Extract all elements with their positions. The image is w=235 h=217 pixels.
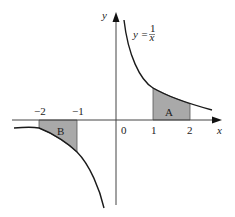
- tick-label-neg1: −1: [72, 105, 84, 117]
- tick-label-neg2: −2: [34, 105, 46, 117]
- y-axis-arrow-icon: [113, 12, 120, 22]
- tick-label-1: 1: [151, 124, 157, 136]
- x-axis-arrow-icon: [212, 117, 222, 124]
- region-a-label: A: [165, 106, 173, 118]
- region-b-label: B: [57, 125, 64, 137]
- function-label-lhs: y =: [132, 28, 148, 40]
- curve-left-branch: [14, 127, 104, 208]
- x-axis-label: x: [216, 124, 222, 136]
- function-label-denominator: x: [149, 31, 155, 43]
- function-label: y = 1 x: [132, 22, 156, 43]
- origin-label: 0: [121, 124, 127, 136]
- y-axis-label: y: [101, 9, 107, 21]
- tick-label-2: 2: [187, 124, 193, 136]
- hyperbola-graph: y x 0 1 2 −2 −1 A B y = 1 x: [0, 0, 235, 217]
